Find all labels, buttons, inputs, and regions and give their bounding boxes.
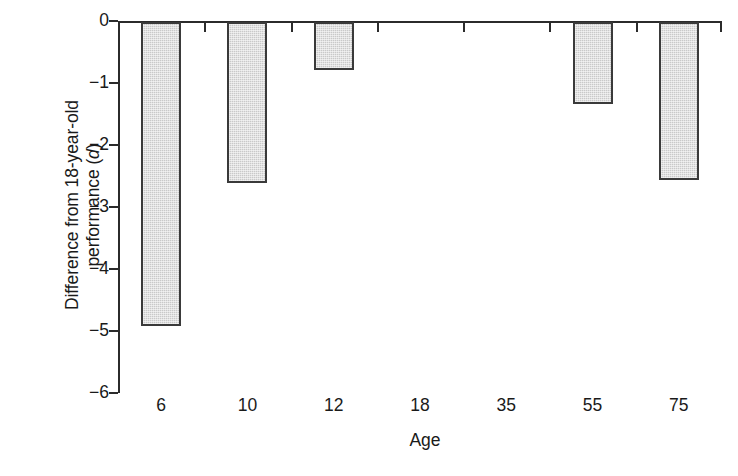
- y-axis-tick-label: −1: [71, 74, 109, 91]
- x-axis-tick: [377, 22, 379, 32]
- x-axis-tick: [720, 22, 722, 32]
- y-axis-tick: [109, 330, 118, 332]
- y-axis-tick: [109, 206, 118, 208]
- y-axis-tick: [109, 392, 118, 394]
- y-axis-spine: [118, 21, 120, 393]
- y-axis-tick-label: 0: [71, 12, 109, 29]
- y-axis-tick-label: −3: [71, 198, 109, 215]
- x-axis-tick-label-75: 75: [649, 395, 709, 415]
- x-axis-tick-label-35: 35: [476, 395, 536, 415]
- y-axis-tick: [109, 144, 118, 146]
- y-axis-tick-label: −4: [71, 260, 109, 277]
- y-axis-tick: [109, 82, 118, 84]
- x-axis-tick-label-12: 12: [304, 395, 364, 415]
- y-axis-tick-label: −6: [71, 384, 109, 401]
- bar-12: [314, 22, 354, 70]
- x-axis-tick-label-18: 18: [390, 395, 450, 415]
- y-axis-tick: [109, 268, 118, 270]
- x-axis-tick: [463, 22, 465, 32]
- zero-baseline: [118, 21, 722, 23]
- bar-55: [573, 22, 613, 104]
- x-axis-tick: [291, 22, 293, 32]
- plot-area: 0−1−2−3−4−5−6: [118, 21, 722, 393]
- x-axis-tick: [636, 22, 638, 32]
- bar-75: [659, 22, 699, 180]
- x-axis-title: Age: [395, 430, 455, 450]
- x-axis-tick-label-6: 6: [131, 395, 191, 415]
- x-axis-tick-label-55: 55: [563, 395, 623, 415]
- y-axis-tick-label: −2: [71, 136, 109, 153]
- x-axis-tick-label-10: 10: [217, 395, 277, 415]
- x-axis-tick: [204, 22, 206, 32]
- y-axis-tick: [109, 20, 118, 22]
- bar-chart-figure: Difference from 18-year-old performance …: [0, 0, 738, 476]
- bar-10: [227, 22, 267, 183]
- x-axis-tick: [549, 22, 551, 32]
- bar-6: [141, 22, 181, 326]
- y-axis-tick-label: −5: [71, 322, 109, 339]
